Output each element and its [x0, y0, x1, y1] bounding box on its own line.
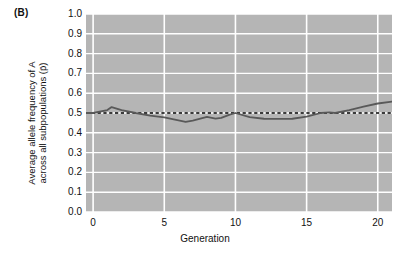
y-axis-tick-label: 0.4 [40, 127, 82, 139]
x-axis-tick-label: 15 [287, 216, 327, 229]
panel-label: (B) [14, 7, 28, 19]
y-axis-tick-label: 0.7 [40, 67, 82, 79]
y-axis-tick-label: 0.8 [40, 48, 82, 60]
x-axis-tick-labels: 05101520 [86, 214, 392, 230]
x-axis-tick-label: 20 [358, 216, 398, 229]
figure-panel-b: (B) Average allele frequency of A across… [0, 0, 410, 261]
plot-svg [86, 14, 392, 212]
y-axis-tick-label: 0.1 [40, 186, 82, 198]
y-axis-tick-label: 0.6 [40, 87, 82, 99]
x-axis-tick-label: 5 [144, 216, 184, 229]
data-line-average-allele-frequency [86, 102, 392, 122]
x-axis-title: Generation [0, 232, 410, 245]
y-axis-tick-labels: 0.00.10.20.30.40.50.60.70.80.91.0 [40, 8, 86, 220]
y-axis-tick-label: 0.3 [40, 147, 82, 159]
y-axis-tick-label: 0.9 [40, 28, 82, 40]
y-axis-tick-label: 1.0 [40, 8, 82, 20]
x-axis-tick-label: 10 [215, 216, 255, 229]
data-series-group [86, 102, 392, 122]
plot-area [86, 14, 392, 212]
y-axis-tick-label: 0.2 [40, 166, 82, 178]
x-axis-tick-label: 0 [73, 216, 113, 229]
y-axis-tick-label: 0.5 [40, 107, 82, 119]
y-axis-title-line-1: Average allele frequency of A [26, 61, 38, 184]
